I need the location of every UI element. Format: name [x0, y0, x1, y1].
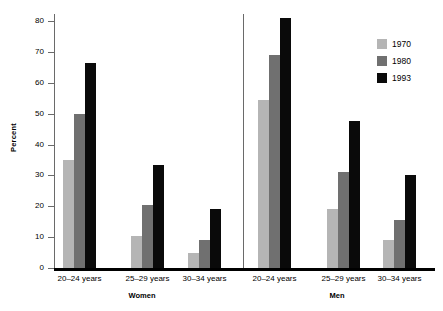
bar-women-2529-1970 — [131, 236, 142, 268]
bar-men-3034-1970 — [383, 240, 394, 268]
bar-men-2529-1980 — [338, 172, 349, 268]
legend-item-1970: 1970 — [377, 37, 411, 51]
bar-men-2024-1970 — [258, 100, 269, 268]
bar-women-2024-1993 — [85, 63, 96, 268]
bar-women-2024-1980 — [74, 114, 85, 268]
bar-chart: Percent 01020304050607080 20–24 years25–… — [0, 0, 443, 311]
chart-legend: 197019801993 — [377, 37, 411, 88]
bar-men-2024-1980 — [269, 55, 280, 268]
legend-swatch-1980 — [377, 56, 387, 66]
bar-men-3034-1980 — [394, 220, 405, 268]
panel-label-men: Men — [297, 292, 377, 300]
bar-men-2529-1970 — [327, 209, 338, 268]
x-tick-label: 30–34 years — [365, 275, 435, 283]
bar-women-3034-1980 — [199, 240, 210, 268]
bar-women-2529-1980 — [142, 205, 153, 268]
legend-label-1993: 1993 — [392, 74, 411, 83]
panel-divider — [243, 14, 244, 268]
bar-men-2529-1993 — [349, 121, 360, 268]
x-tick-label: 20–24 years — [45, 275, 115, 283]
legend-swatch-1970 — [377, 39, 387, 49]
x-axis-baseline — [54, 268, 435, 271]
bar-women-2024-1970 — [63, 160, 74, 268]
legend-swatch-1993 — [377, 73, 387, 83]
bar-men-2024-1993 — [280, 18, 291, 268]
bar-women-3034-1970 — [188, 253, 199, 268]
panel-label-women: Women — [102, 292, 182, 300]
legend-item-1980: 1980 — [377, 54, 411, 68]
bar-women-2529-1993 — [153, 165, 164, 268]
bar-men-3034-1993 — [405, 175, 416, 268]
bar-women-3034-1993 — [210, 209, 221, 268]
legend-label-1970: 1970 — [392, 40, 411, 49]
x-tick-label: 20–24 years — [240, 275, 310, 283]
x-tick-label: 30–34 years — [170, 275, 240, 283]
legend-label-1980: 1980 — [392, 57, 411, 66]
legend-item-1993: 1993 — [377, 71, 411, 85]
